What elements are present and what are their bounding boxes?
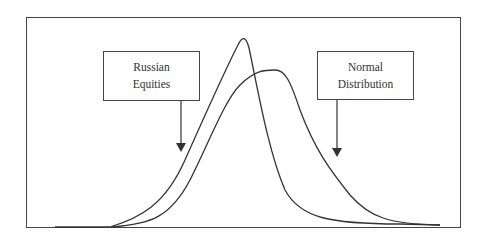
normal-label-line2: Distribution (318, 76, 413, 93)
russian-label-line2: Equities (104, 76, 199, 93)
normal-distribution-label: Normal Distribution (317, 51, 414, 100)
russian-equities-label: Russian Equities (103, 51, 200, 101)
russian-arrowhead-icon (176, 143, 186, 152)
normal-arrowhead-icon (332, 148, 342, 157)
russian-label-line1: Russian (104, 59, 199, 76)
normal-label-line1: Normal (318, 59, 413, 76)
distribution-plot (0, 0, 484, 243)
